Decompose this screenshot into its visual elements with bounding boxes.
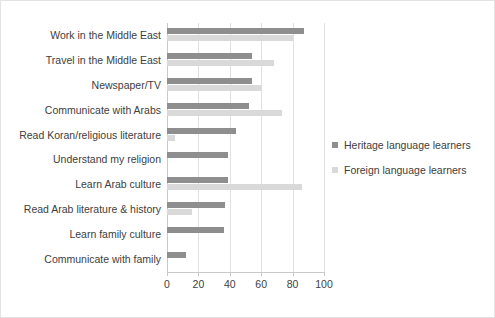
bar-heritage: [167, 78, 252, 84]
bar-heritage: [167, 252, 186, 258]
bar-rows: [167, 23, 324, 272]
x-tick-mark-80: [293, 272, 294, 276]
bar-heritage: [167, 227, 224, 233]
y-axis-category-labels: Work in the Middle EastTravel in the Mid…: [11, 23, 161, 272]
bar-foreign: [167, 85, 261, 91]
category-label: Learn family culture: [11, 222, 161, 247]
legend-label: Heritage language learners: [344, 139, 471, 151]
x-axis-tick-labels: 020406080100: [1, 278, 495, 294]
category-label: Work in the Middle East: [11, 23, 161, 48]
bar-foreign: [167, 35, 293, 41]
x-tick-label: 0: [164, 278, 170, 290]
bar-row: [167, 98, 324, 123]
category-label: Travel in the Middle East: [11, 48, 161, 73]
bar-heritage: [167, 28, 304, 34]
bar-foreign: [167, 184, 302, 190]
x-tick-label: 60: [255, 278, 267, 290]
bar-foreign: [167, 60, 274, 66]
bar-heritage: [167, 53, 252, 59]
bar-row: [167, 123, 324, 148]
legend-swatch-icon: [332, 142, 338, 148]
bar-chart-figure: Work in the Middle EastTravel in the Mid…: [0, 0, 495, 318]
bar-row: [167, 147, 324, 172]
bar-foreign: [167, 135, 175, 141]
bar-heritage: [167, 152, 228, 158]
legend-swatch-icon: [332, 167, 338, 173]
x-tick-mark-40: [230, 272, 231, 276]
bar-foreign: [167, 209, 192, 215]
category-label: Read Koran/religious literature: [11, 123, 161, 148]
legend-entry[interactable]: Heritage language learners: [332, 139, 490, 151]
category-label: Newspaper/TV: [11, 73, 161, 98]
x-tick-label: 80: [287, 278, 299, 290]
category-label: Understand my religion: [11, 147, 161, 172]
bar-row: [167, 222, 324, 247]
x-tick-label: 20: [193, 278, 205, 290]
chart-legend: Heritage language learnersForeign langua…: [332, 139, 490, 189]
gridline-100: [324, 23, 325, 272]
bar-foreign: [167, 110, 282, 116]
bar-row: [167, 172, 324, 197]
plot-area: [167, 23, 324, 272]
bar-heritage: [167, 103, 249, 109]
category-label: Learn Arab culture: [11, 172, 161, 197]
x-tick-mark-20: [198, 272, 199, 276]
x-tick-label: 100: [315, 278, 333, 290]
x-tick-label: 40: [224, 278, 236, 290]
bar-heritage: [167, 202, 225, 208]
category-label: Communicate with family: [11, 247, 161, 272]
legend-entry[interactable]: Foreign language learners: [332, 164, 490, 176]
bar-row: [167, 247, 324, 272]
bar-row: [167, 73, 324, 98]
category-label: Read Arab literature & history: [11, 197, 161, 222]
x-tick-mark-60: [261, 272, 262, 276]
x-axis-line: [167, 272, 325, 273]
category-label: Communicate with Arabs: [11, 98, 161, 123]
legend-label: Foreign language learners: [344, 164, 467, 176]
x-tick-mark-0: [167, 272, 168, 276]
bar-heritage: [167, 177, 228, 183]
bar-heritage: [167, 128, 236, 134]
bar-row: [167, 48, 324, 73]
bar-row: [167, 197, 324, 222]
bar-row: [167, 23, 324, 48]
x-tick-mark-100: [324, 272, 325, 276]
